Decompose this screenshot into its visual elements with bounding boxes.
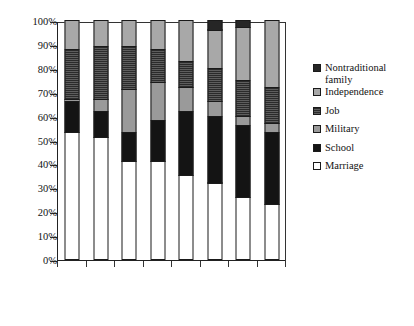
legend-swatch-icon <box>313 64 321 72</box>
bar-segment[interactable] <box>236 27 251 81</box>
x-tick-mark <box>143 261 144 267</box>
legend-label: Marriage <box>325 160 363 172</box>
bar-segment[interactable] <box>65 132 80 260</box>
legend-label: Nontraditional family <box>325 62 386 85</box>
bar-slot <box>87 22 116 260</box>
bar-segment[interactable] <box>150 161 165 260</box>
stacked-bar-chart: 0%10%20%30%40%50%60%70%80%90%100% 1920-2… <box>0 0 414 326</box>
stacked-bar[interactable] <box>264 22 279 260</box>
bar-slot <box>144 22 173 260</box>
bar-segment[interactable] <box>150 82 165 121</box>
bar-segment[interactable] <box>93 99 108 112</box>
legend-item[interactable]: Independence <box>313 86 413 98</box>
stacked-bar[interactable] <box>122 22 137 260</box>
y-axis: 0%10%20%30%40%50%60%70%80%90%100% <box>0 22 57 261</box>
bar-segment[interactable] <box>150 120 165 162</box>
x-tick-mark <box>228 261 229 267</box>
bar-segment[interactable] <box>207 101 222 116</box>
legend-swatch-icon <box>313 162 321 170</box>
bar-segment[interactable] <box>207 20 222 31</box>
bar-segment[interactable] <box>264 20 279 88</box>
bar-segment[interactable] <box>264 204 279 260</box>
x-tick-mark <box>257 261 258 267</box>
legend-swatch-icon <box>313 125 321 133</box>
bar-segment[interactable] <box>65 101 80 133</box>
y-tick-label: 60% <box>13 113 57 123</box>
bar-segment[interactable] <box>93 46 108 100</box>
stacked-bar[interactable] <box>93 22 108 260</box>
bar-segment[interactable] <box>207 29 222 68</box>
legend-item[interactable]: Marriage <box>313 160 413 172</box>
bar-segment[interactable] <box>264 123 279 134</box>
bar-segment[interactable] <box>236 116 251 127</box>
y-tick-label: 40% <box>13 160 57 170</box>
bar-segment[interactable] <box>236 125 251 198</box>
y-tick-label: 30% <box>13 184 57 194</box>
bar-segment[interactable] <box>236 20 251 28</box>
bar-segment[interactable] <box>122 89 137 133</box>
bar-slot <box>58 22 87 260</box>
y-tick-label: 20% <box>13 208 57 218</box>
bar-segment[interactable] <box>179 111 194 177</box>
bar-segment[interactable] <box>207 182 222 260</box>
bar-slot <box>201 22 230 260</box>
plot-area <box>57 22 285 261</box>
bar-segment[interactable] <box>236 197 251 260</box>
stacked-bar[interactable] <box>65 22 80 260</box>
y-tick-label: 50% <box>13 137 57 147</box>
bar-segment[interactable] <box>207 68 222 103</box>
bar-segment[interactable] <box>122 161 137 260</box>
x-tick-mark <box>200 261 201 267</box>
bar-segment[interactable] <box>207 116 222 184</box>
legend-swatch-icon <box>313 88 321 96</box>
x-tick-mark <box>171 261 172 267</box>
bar-segment[interactable] <box>93 137 108 260</box>
y-tick-label: 10% <box>13 232 57 242</box>
bar-slot <box>258 22 287 260</box>
bar-segment[interactable] <box>93 111 108 138</box>
bar-segment[interactable] <box>93 20 108 47</box>
legend-label: Military <box>325 123 359 135</box>
bar-segment[interactable] <box>264 87 279 124</box>
legend-item[interactable]: Job <box>313 105 413 117</box>
chart-legend: Nontraditional familyIndependenceJobMili… <box>313 62 413 172</box>
bar-segment[interactable] <box>264 132 279 205</box>
legend-item[interactable]: Military <box>313 123 413 135</box>
bar-segment[interactable] <box>179 87 194 112</box>
bar-segment[interactable] <box>122 132 137 162</box>
bar-segment[interactable] <box>65 49 80 100</box>
bar-segment[interactable] <box>179 175 194 260</box>
stacked-bar[interactable] <box>179 22 194 260</box>
legend-item[interactable]: Nontraditional family <box>313 62 413 85</box>
bar-segment[interactable] <box>236 80 251 117</box>
bar-segment[interactable] <box>150 49 165 84</box>
x-tick-mark <box>86 261 87 267</box>
bar-slot <box>115 22 144 260</box>
y-tick-label: 90% <box>13 41 57 51</box>
stacked-bar[interactable] <box>207 22 222 260</box>
legend-label: Independence <box>325 86 383 98</box>
legend-label: Job <box>325 105 340 117</box>
y-tick-label: 80% <box>13 65 57 75</box>
bar-segment[interactable] <box>179 61 194 88</box>
bar-segment[interactable] <box>122 20 137 47</box>
x-tick-mark <box>285 261 286 267</box>
y-tick-label: 0% <box>13 256 57 266</box>
x-tick-mark <box>114 261 115 267</box>
legend-item[interactable]: School <box>313 142 413 154</box>
bar-segment[interactable] <box>179 20 194 62</box>
stacked-bar[interactable] <box>150 22 165 260</box>
x-tick-mark <box>57 261 58 267</box>
bar-slot <box>172 22 201 260</box>
bar-segment[interactable] <box>122 46 137 90</box>
y-tick-label: 100% <box>13 17 57 27</box>
legend-swatch-icon <box>313 144 321 152</box>
stacked-bar[interactable] <box>236 22 251 260</box>
legend-label: School <box>325 142 354 154</box>
bar-segment[interactable] <box>65 20 80 50</box>
bar-segment[interactable] <box>150 20 165 50</box>
legend-swatch-icon <box>313 107 321 115</box>
bar-slot <box>229 22 258 260</box>
y-tick-label: 70% <box>13 89 57 99</box>
